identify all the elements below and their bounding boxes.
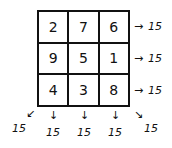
cell-r2c2: 5 [68, 43, 98, 75]
cell-r1c2: 7 [68, 11, 98, 43]
cell-r2c1: 9 [38, 43, 68, 75]
arrow-down-icon: ↓ [80, 109, 89, 122]
cell-r1c1: 2 [38, 11, 68, 43]
column-sum-2: 15 [77, 126, 91, 139]
arrow-down-icon: ↓ [49, 109, 58, 122]
cell-r1c3: 6 [99, 11, 129, 43]
anti-diagonal-sum: 15 [12, 122, 26, 135]
column-sum-1: 15 [46, 126, 60, 139]
arrow-down-right-icon: ↘ [134, 108, 143, 121]
arrow-down-left-icon: ↙ [26, 107, 35, 120]
cell-r3c2: 3 [68, 74, 98, 106]
main-diagonal-sum: 15 [144, 122, 158, 135]
row-sum-1: 15 [148, 20, 162, 33]
arrow-down-icon: ↓ [111, 109, 120, 122]
arrow-right-icon: → [134, 84, 143, 97]
column-sum-3: 15 [108, 126, 122, 139]
cell-r2c3: 1 [99, 43, 129, 75]
arrow-right-icon: → [134, 20, 143, 33]
cell-r3c3: 8 [99, 74, 129, 106]
cell-r3c1: 4 [38, 74, 68, 106]
magic-square-grid: 2 7 6 9 5 1 4 3 8 [37, 10, 130, 107]
row-sum-2: 15 [148, 52, 162, 65]
arrow-right-icon: → [134, 52, 143, 65]
row-sum-3: 15 [148, 84, 162, 97]
